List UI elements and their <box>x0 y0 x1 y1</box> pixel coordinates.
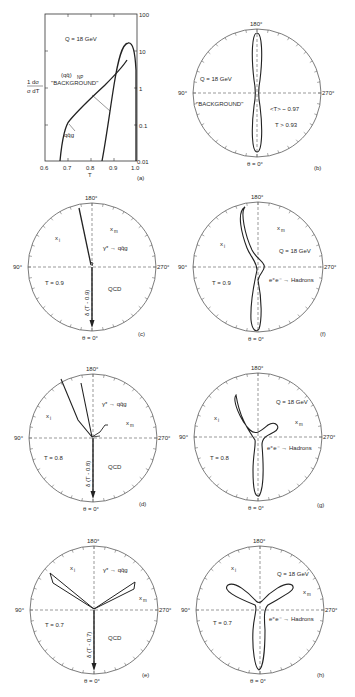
svg-text:QCD: QCD <box>108 464 122 470</box>
angle-270-label: 270° <box>324 264 337 270</box>
panel-f-content: x i x m Q = 18 GeV T = 0.9 e⁺e⁻ → Hadron… <box>212 207 314 331</box>
svg-text:x: x <box>110 226 113 232</box>
panel-id: (b) <box>314 165 321 171</box>
svg-text:T = 0.8: T = 0.8 <box>210 455 229 461</box>
svg-text:m: m <box>281 228 285 233</box>
svg-text:x: x <box>295 419 298 425</box>
panel-d-content: x i x m γ* → qq̄g T = 0.8 QCD δ (T - 0.8… <box>44 379 134 499</box>
panel-id: (f) <box>320 331 326 337</box>
svg-text:T = 0.9: T = 0.9 <box>212 280 231 286</box>
background-curve <box>102 43 136 161</box>
qqg-label: qq̄g <box>64 132 74 138</box>
angle-0-label: θ = 0° <box>250 678 267 684</box>
angle-270-label: 270° <box>158 435 171 441</box>
angle-270-label: 270° <box>325 607 338 613</box>
svg-text:δ (T - 0.7): δ (T - 0.7) <box>86 632 92 658</box>
angle-0-label: θ = 0° <box>248 505 265 511</box>
xtick-0.8: 0.8 <box>86 165 95 171</box>
xtick-1.0: 1.0 <box>131 165 140 171</box>
mean-thrust-label: <T> ~ 0.97 <box>270 106 300 112</box>
panel-h-polar: 180°θ = 0°90°270°(h) <box>181 538 338 684</box>
svg-text:γ* → qq̄g: γ* → qq̄g <box>103 567 128 573</box>
svg-text:x: x <box>126 420 129 426</box>
angle-180-label: 180° <box>87 538 100 544</box>
panel-id: (h) <box>317 672 324 678</box>
svg-text:δ (T - 0.9): δ (T - 0.9) <box>84 290 90 316</box>
svg-text:i: i <box>50 416 51 421</box>
y-axis-label: 1 dσ σ dT <box>27 79 43 94</box>
panel-id: (d) <box>139 501 146 507</box>
angle-90-label: 90° <box>13 264 23 270</box>
x-axis-label: T <box>88 172 92 178</box>
svg-text:x: x <box>55 235 58 241</box>
thrust-cut-label: T > 0.93 <box>275 122 298 128</box>
panel-g-polar: 180°θ = 0°90°270°(g) <box>179 365 336 511</box>
panel-c-content: x i x m γ* → qq̄g T = 0.9 QCD δ (T - 0.9… <box>45 208 128 328</box>
svg-text:m: m <box>130 423 134 428</box>
angle-270-label: 270° <box>157 264 170 270</box>
polar-circle <box>193 29 321 157</box>
svg-text:QCD: QCD <box>108 286 122 292</box>
angle-180-label: 180° <box>251 194 264 200</box>
svg-text:x: x <box>231 565 234 571</box>
svg-text:x: x <box>46 413 49 419</box>
svg-text:i: i <box>74 568 75 573</box>
panel-b-content: Q = 18 GeV "BACKGROUND" <T> ~ 0.97 T > 0… <box>196 33 300 152</box>
panel-f-polar: 180°θ = 0°90°270°(f) <box>178 194 337 342</box>
svg-text:e⁺e⁻ → Hadrons: e⁺e⁻ → Hadrons <box>269 277 314 283</box>
angle-270-label: 270° <box>322 90 335 96</box>
xtick-0.6: 0.6 <box>40 165 49 171</box>
energy-label: Q = 18 GeV <box>65 36 97 42</box>
angle-0-label: θ = 0° <box>82 335 99 341</box>
svg-text:m: m <box>299 422 303 427</box>
svg-text:e⁺e⁻ → Hadrons: e⁺e⁻ → Hadrons <box>267 445 312 451</box>
svg-text:m: m <box>307 592 311 597</box>
svg-text:i: i <box>224 244 225 249</box>
svg-text:Q = 18 GeV: Q = 18 GeV <box>279 248 311 254</box>
svg-text:T = 0.9: T = 0.9 <box>45 280 64 286</box>
svg-text:i: i <box>218 418 219 423</box>
angle-90-label: 90° <box>178 90 188 96</box>
svg-text:"BACKGROUND": "BACKGROUND" <box>51 80 98 86</box>
svg-text:σ dT: σ dT <box>27 88 40 94</box>
angle-180-label: 180° <box>85 195 98 201</box>
angle-180-label: 180° <box>250 21 263 27</box>
svg-text:x: x <box>214 415 217 421</box>
svg-text:1 dσ: 1 dσ <box>27 79 39 85</box>
svg-text:T = 0.8: T = 0.8 <box>44 455 63 461</box>
svg-text:x: x <box>139 595 142 601</box>
panel-g-content: x i x m Q = 18 GeV T = 0.8 e⁺e⁻ → Hadron… <box>210 395 312 496</box>
svg-text:x: x <box>277 225 280 231</box>
energy-label: Q = 18 GeV <box>200 76 232 82</box>
svg-text:δ (T - 0.8): δ (T - 0.8) <box>85 461 91 487</box>
svg-text:(qq̄): (qq̄) <box>61 72 72 78</box>
panel-a-log-plot: 100 10 1 0.1 0.01 0.6 0.7 0.8 0.9 1.0 T … <box>27 12 150 181</box>
svg-text:Q = 18 GeV: Q = 18 GeV <box>276 399 308 405</box>
angle-0-label: θ = 0° <box>84 678 101 684</box>
ytick-10: 10 <box>139 49 146 55</box>
angle-270-label: 270° <box>323 434 336 440</box>
polar-circle <box>196 546 324 674</box>
svg-text:e⁺e⁻ → Hadrons: e⁺e⁻ → Hadrons <box>269 616 314 622</box>
svg-text:γ* → qq̄g: γ* → qq̄g <box>103 245 128 251</box>
background-label: "BACKGROUND" <box>196 101 243 107</box>
svg-text:T = 0.7: T = 0.7 <box>213 620 232 626</box>
svg-text:γ* → qq̄g: γ* → qq̄g <box>102 401 127 407</box>
angle-180-label: 180° <box>253 538 266 544</box>
panel-id: (c) <box>138 331 145 337</box>
panel-b-polar: 180°θ = 0°90°270°(b) <box>178 21 335 171</box>
panel-h-content: x i x m Q = 18 GeV T = 0.7 e⁺e⁻ → Hadron… <box>213 565 314 670</box>
svg-text:i: i <box>59 238 60 243</box>
xtick-0.7: 0.7 <box>63 165 72 171</box>
panel-id: (e) <box>142 672 149 678</box>
angle-90-label: 90° <box>181 607 191 613</box>
figure-canvas: 100 10 1 0.1 0.01 0.6 0.7 0.8 0.9 1.0 T … <box>0 0 355 697</box>
angle-180-label: 180° <box>251 365 264 371</box>
angle-0-label: θ = 0° <box>247 161 264 167</box>
panel-e-content: x i x m γ* → qq̄g T = 0.7 QCD δ (T - 0.7… <box>45 565 147 671</box>
xtick-0.9: 0.9 <box>109 165 118 171</box>
angle-90-label: 90° <box>15 607 25 613</box>
svg-text:m: m <box>114 229 118 234</box>
svg-text:x: x <box>303 589 306 595</box>
ytick-1: 1 <box>139 86 143 92</box>
